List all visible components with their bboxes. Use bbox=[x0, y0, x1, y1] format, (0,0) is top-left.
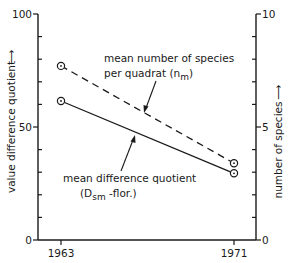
y-right-label-group: number of species ⟶ bbox=[272, 85, 284, 199]
y-left-label: value difference quotient bbox=[5, 61, 17, 193]
y-right-tick-0: 0 bbox=[262, 234, 269, 246]
annotation-quotient-line2: (Dsm -flor.) bbox=[80, 187, 137, 202]
y-left-tick-50: 50 bbox=[19, 121, 32, 133]
annotation-quotient-arrow-icon bbox=[121, 135, 136, 171]
y-right-label: number of species bbox=[272, 102, 284, 199]
y-left-arrow-icon: ⟶ bbox=[5, 50, 17, 65]
series-quotient-marker-1963 bbox=[57, 97, 64, 104]
x-tick-1963: 1963 bbox=[48, 247, 75, 259]
series-quotient-line bbox=[61, 101, 234, 173]
y-right-tick-10: 10 bbox=[262, 8, 275, 20]
y-left-tick-100: 100 bbox=[12, 8, 32, 20]
x-ticks bbox=[61, 240, 234, 245]
chart: 100 50 0 10 5 0 1963 1971 value differen… bbox=[0, 0, 289, 263]
annotation-species-line2: per quadrat (nm) bbox=[104, 67, 193, 82]
y-left-tick-0: 0 bbox=[25, 234, 32, 246]
y-right-tick-5: 5 bbox=[262, 121, 269, 133]
series-quotient-marker-1971 bbox=[230, 170, 237, 177]
series-species-marker-1971 bbox=[230, 160, 237, 167]
y-left-label-group: value difference quotient ⟶ bbox=[5, 50, 17, 193]
series-species-line bbox=[61, 66, 234, 163]
series-species-marker-1963 bbox=[57, 62, 64, 69]
annotation-species-line1: mean number of species bbox=[104, 52, 234, 64]
annotation-species-arrow-icon bbox=[144, 81, 157, 113]
x-tick-1971: 1971 bbox=[221, 247, 248, 259]
y-right-arrow-icon: ⟶ bbox=[272, 85, 284, 100]
annotation-quotient-line1: mean difference quotient bbox=[63, 172, 196, 184]
